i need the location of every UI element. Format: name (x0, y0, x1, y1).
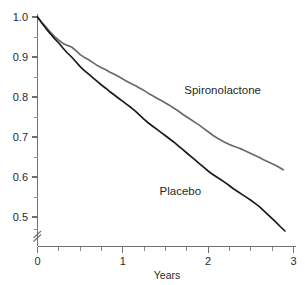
x-axis-group: 0123 Years (34, 247, 296, 282)
x-tick-label-2: 2 (205, 255, 211, 267)
chart-canvas: 1.0 0.9 0.8 0.7 0.6 0.5 0123 Years Spiro… (0, 0, 305, 285)
series-annotations: Spironolactone Placebo (160, 84, 261, 197)
x-tick-label-3: 3 (290, 255, 296, 267)
y-tick-label-0-6: 0.6 (13, 171, 28, 183)
x-tick-label-0: 0 (34, 255, 40, 267)
x-tick-labels: 0123 (34, 255, 296, 267)
series-label-placebo: Placebo (160, 185, 202, 197)
y-axis-group: 1.0 0.9 0.8 0.7 0.6 0.5 (13, 11, 41, 246)
y-tick-label-0-7: 0.7 (13, 131, 28, 143)
y-tick-label-1-0: 1.0 (13, 11, 28, 23)
y-tick-label-0-5: 0.5 (13, 211, 28, 223)
x-axis-title: Years (154, 269, 180, 281)
x-tick-label-1: 1 (120, 255, 126, 267)
survival-curve-figure: 1.0 0.9 0.8 0.7 0.6 0.5 0123 Years Spiro… (0, 0, 305, 285)
y-tick-label-0-9: 0.9 (13, 51, 28, 63)
series-label-spironolactone: Spironolactone (184, 84, 261, 96)
series-group (38, 17, 285, 231)
y-tick-label-0-8: 0.8 (13, 91, 28, 103)
x-tick-marks (38, 247, 294, 254)
